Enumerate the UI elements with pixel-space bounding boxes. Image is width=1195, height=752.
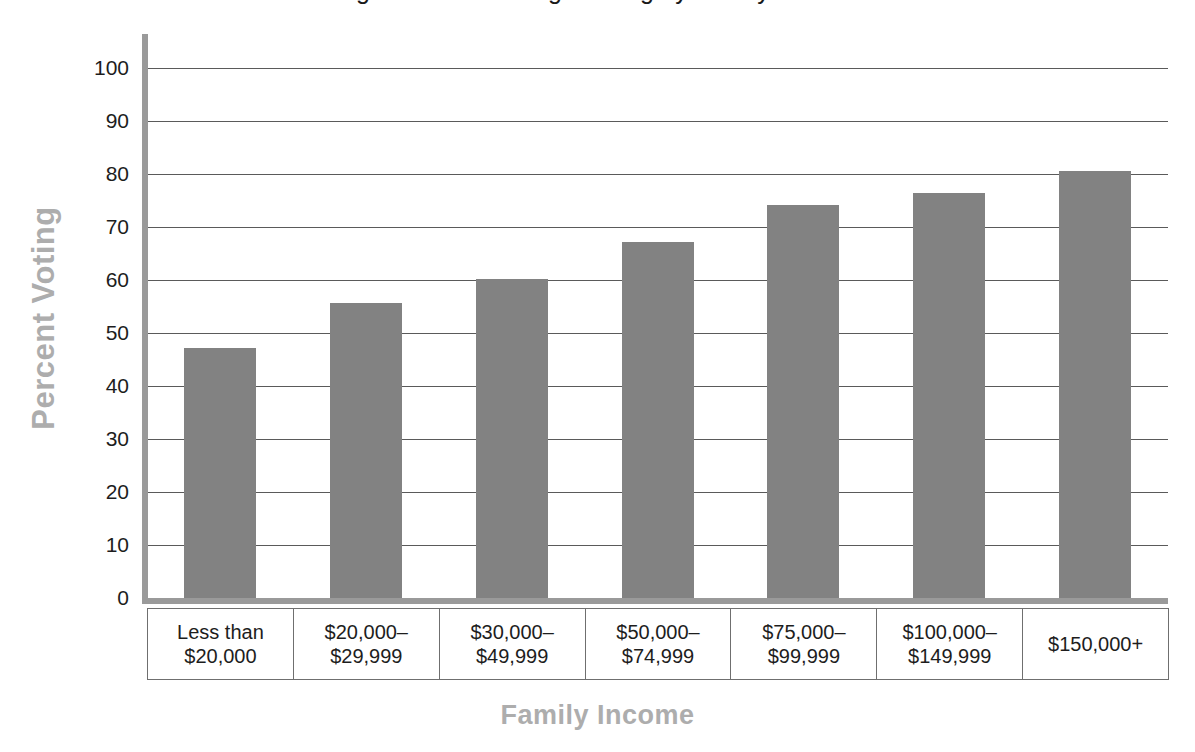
category-cell-0: Less than$20,000 — [148, 609, 294, 679]
category-cell-2: $30,000–$49,999 — [440, 609, 586, 679]
y-tick-label-80: 80 — [69, 162, 129, 186]
category-cell-3: $50,000–$74,999 — [586, 609, 732, 679]
category-label-line: $100,000– — [902, 620, 997, 644]
gridline-100 — [148, 68, 1168, 69]
bar-0[interactable] — [184, 348, 256, 598]
x-axis-title: Family Income — [0, 700, 1195, 731]
category-label-line: $20,000– — [325, 620, 408, 644]
y-axis-title: Percent Voting — [26, 178, 62, 458]
category-cell-1: $20,000–$29,999 — [294, 609, 440, 679]
category-label-line: $149,999 — [908, 644, 991, 668]
y-tick-label-50: 50 — [69, 321, 129, 345]
y-tick-label-0: 0 — [69, 586, 129, 610]
gridline-80 — [148, 174, 1168, 175]
bar-6[interactable] — [1059, 171, 1131, 598]
category-label-line: $20,000 — [184, 644, 256, 668]
gridline-90 — [148, 121, 1168, 122]
gridline-70 — [148, 227, 1168, 228]
y-tick-label-10: 10 — [69, 533, 129, 557]
bar-2[interactable] — [476, 279, 548, 598]
y-tick-label-30: 30 — [69, 427, 129, 451]
category-label-line: $74,999 — [622, 644, 694, 668]
y-tick-label-60: 60 — [69, 268, 129, 292]
bar-5[interactable] — [913, 193, 985, 598]
bar-1[interactable] — [330, 303, 402, 598]
x-axis-line — [142, 598, 1168, 604]
bar-4[interactable] — [767, 205, 839, 598]
category-label-line: $50,000– — [616, 620, 699, 644]
chart-title: Figure — Percentage Voting by Family Inc… — [0, 0, 1195, 5]
y-tick-label-90: 90 — [69, 109, 129, 133]
category-label-line: $49,999 — [476, 644, 548, 668]
y-axis-line — [142, 34, 148, 604]
category-label-line: Less than — [177, 620, 264, 644]
y-tick-label-100: 100 — [69, 56, 129, 80]
category-cell-6: $150,000+ — [1023, 609, 1168, 679]
category-label-line: $99,999 — [768, 644, 840, 668]
y-tick-label-40: 40 — [69, 374, 129, 398]
category-label-line: $75,000– — [762, 620, 845, 644]
category-label-line: $150,000+ — [1048, 632, 1143, 656]
bar-3[interactable] — [622, 242, 694, 598]
category-cell-4: $75,000–$99,999 — [731, 609, 877, 679]
category-label-line: $30,000– — [470, 620, 553, 644]
y-tick-label-20: 20 — [69, 480, 129, 504]
x-axis-category-row: Less than$20,000$20,000–$29,999$30,000–$… — [147, 608, 1169, 680]
y-tick-label-70: 70 — [69, 215, 129, 239]
category-label-line: $29,999 — [330, 644, 402, 668]
category-cell-5: $100,000–$149,999 — [877, 609, 1023, 679]
